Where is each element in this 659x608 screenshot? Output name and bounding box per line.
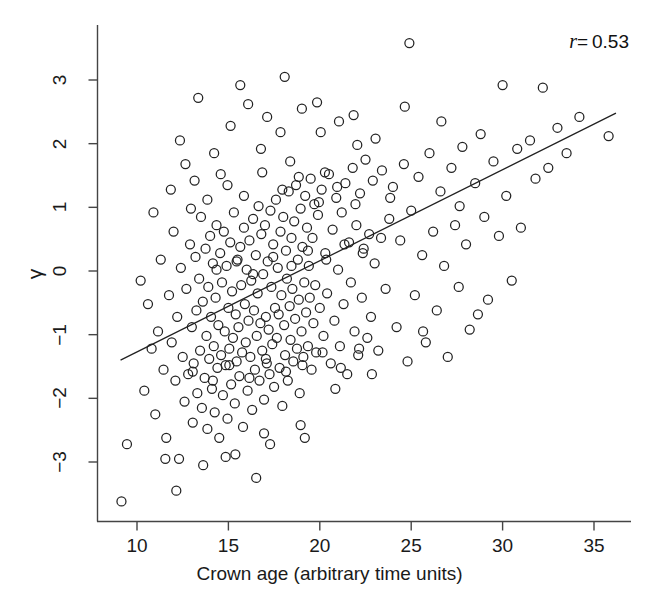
data-point	[235, 372, 244, 381]
data-point	[225, 344, 234, 353]
data-point	[489, 157, 498, 166]
data-point	[251, 251, 260, 260]
x-axis-label: Crown age (arbitrary time units)	[0, 563, 659, 585]
data-point	[231, 310, 240, 319]
data-point	[604, 132, 613, 141]
data-point	[377, 233, 386, 242]
data-point	[392, 323, 401, 332]
data-point	[336, 363, 345, 372]
data-point	[294, 295, 303, 304]
data-point	[353, 140, 362, 149]
data-point	[245, 236, 254, 245]
data-point	[323, 289, 332, 298]
y-tick-label: 0	[49, 250, 71, 292]
data-point	[335, 342, 344, 351]
data-point	[258, 346, 267, 355]
data-point	[337, 208, 346, 217]
data-point	[284, 187, 293, 196]
data-point	[483, 295, 492, 304]
data-point	[498, 81, 507, 90]
correlation-annotation: r= 0.53	[569, 30, 629, 53]
data-point	[352, 221, 361, 230]
data-point	[287, 261, 296, 270]
data-point	[507, 276, 516, 285]
data-point	[462, 240, 471, 249]
data-point	[260, 395, 269, 404]
data-point	[216, 249, 225, 258]
data-point	[296, 204, 305, 213]
data-point	[410, 291, 419, 300]
data-point	[308, 233, 317, 242]
data-point	[176, 263, 185, 272]
data-point	[196, 212, 205, 221]
data-point	[316, 128, 325, 137]
data-point	[296, 421, 305, 430]
data-point	[553, 123, 562, 132]
data-point	[295, 389, 304, 398]
data-point	[181, 160, 190, 169]
x-tick-label: 10	[107, 535, 167, 557]
data-point	[287, 233, 296, 242]
data-point	[239, 422, 248, 431]
data-point	[516, 223, 525, 232]
data-point	[315, 303, 324, 312]
data-point	[244, 100, 253, 109]
y-axis-ticks	[89, 80, 98, 462]
data-point	[374, 346, 383, 355]
y-tick-label: 1	[49, 186, 71, 228]
data-point	[285, 302, 294, 311]
data-point	[203, 424, 212, 433]
data-point	[291, 314, 300, 323]
data-point	[400, 102, 409, 111]
data-point	[288, 284, 297, 293]
data-point	[440, 261, 449, 270]
data-point	[289, 357, 298, 366]
data-point	[252, 473, 261, 482]
data-point	[368, 176, 377, 185]
data-point	[122, 440, 131, 449]
data-point	[405, 39, 414, 48]
y-tick-label: −2	[49, 377, 71, 419]
axis-spines	[97, 25, 631, 522]
data-point	[180, 397, 189, 406]
y-tick-label: 2	[49, 123, 71, 165]
y-tick-label: −1	[49, 314, 71, 356]
correlation-value: 0.53	[592, 31, 629, 52]
data-point	[195, 274, 204, 283]
data-point	[513, 144, 522, 153]
data-point	[425, 149, 434, 158]
data-point	[186, 204, 195, 213]
x-tick-label: 35	[564, 535, 624, 557]
data-point	[297, 104, 306, 113]
data-point	[156, 255, 165, 264]
data-point	[436, 187, 445, 196]
data-point	[218, 391, 227, 400]
data-point	[197, 403, 206, 412]
data-point	[154, 327, 163, 336]
data-point	[377, 166, 386, 175]
data-point	[286, 157, 295, 166]
data-point	[418, 251, 427, 260]
data-point	[164, 291, 173, 300]
data-point	[189, 359, 198, 368]
scatter-points	[117, 39, 613, 506]
data-point	[265, 370, 274, 379]
data-point	[348, 163, 357, 172]
data-point	[198, 297, 207, 306]
data-point	[526, 136, 535, 145]
data-point	[159, 365, 168, 374]
data-point	[276, 227, 285, 236]
data-point	[202, 331, 211, 340]
data-point	[252, 331, 261, 340]
data-point	[562, 149, 571, 158]
data-point	[331, 384, 340, 393]
data-point	[303, 342, 312, 351]
data-point	[421, 338, 430, 347]
y-tick-label: −3	[49, 441, 71, 483]
data-point	[259, 270, 268, 279]
data-point	[283, 376, 292, 385]
data-point	[223, 181, 232, 190]
data-point	[300, 278, 309, 287]
data-point	[313, 98, 322, 107]
data-point	[330, 316, 339, 325]
